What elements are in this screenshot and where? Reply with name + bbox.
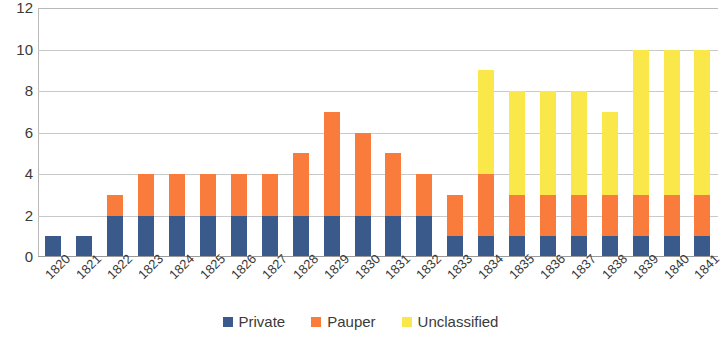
y-axis-tick-label: 10 bbox=[3, 42, 33, 57]
legend-item[interactable]: Unclassified bbox=[402, 314, 499, 329]
legend-item[interactable]: Pauper bbox=[311, 314, 375, 329]
bar-slot[interactable] bbox=[687, 8, 718, 257]
bar-stack[interactable] bbox=[633, 50, 649, 258]
bar-segment-pauper[interactable] bbox=[694, 195, 710, 237]
x-axis-tick-slot: 1820 bbox=[38, 258, 69, 306]
y-axis-tick-label: 8 bbox=[3, 83, 33, 98]
bar-segment-pauper[interactable] bbox=[293, 153, 309, 215]
bar-segment-pauper[interactable] bbox=[571, 195, 587, 237]
bar-slot[interactable] bbox=[285, 8, 316, 257]
bar-stack[interactable] bbox=[262, 174, 278, 257]
bar-segment-unclassified[interactable] bbox=[509, 91, 525, 195]
bar-segment-unclassified[interactable] bbox=[571, 91, 587, 195]
bar-segment-pauper[interactable] bbox=[633, 195, 649, 237]
bar-slot[interactable] bbox=[69, 8, 100, 257]
bar-slot[interactable] bbox=[38, 8, 69, 257]
bar-segment-private[interactable] bbox=[262, 216, 278, 258]
bar-slot[interactable] bbox=[502, 8, 533, 257]
bar-segment-pauper[interactable] bbox=[447, 195, 463, 237]
bar-slot[interactable] bbox=[625, 8, 656, 257]
bar-segment-private[interactable] bbox=[385, 216, 401, 258]
bar-segment-unclassified[interactable] bbox=[540, 91, 556, 195]
bar-slot[interactable] bbox=[563, 8, 594, 257]
bar-slot[interactable] bbox=[656, 8, 687, 257]
bar-segment-pauper[interactable] bbox=[355, 133, 371, 216]
bar-stack[interactable] bbox=[447, 195, 463, 257]
bar-segment-pauper[interactable] bbox=[107, 195, 123, 216]
bar-slot[interactable] bbox=[471, 8, 502, 257]
y-axis-tick-label: 2 bbox=[3, 208, 33, 223]
y-axis-tick-label: 4 bbox=[3, 166, 33, 181]
legend-label: Private bbox=[239, 314, 286, 329]
bar-segment-unclassified[interactable] bbox=[664, 50, 680, 195]
bar-segment-private[interactable] bbox=[324, 216, 340, 258]
bar-segment-pauper[interactable] bbox=[169, 174, 185, 216]
legend-swatch-icon bbox=[311, 317, 321, 327]
x-axis-tick-slot: 1831 bbox=[378, 258, 409, 306]
x-axis-tick-slot: 1822 bbox=[100, 258, 131, 306]
bar-slot[interactable] bbox=[594, 8, 625, 257]
legend-label: Unclassified bbox=[418, 314, 499, 329]
bar-segment-private[interactable] bbox=[107, 216, 123, 258]
bar-segment-private[interactable] bbox=[138, 216, 154, 258]
bar-slot[interactable] bbox=[193, 8, 224, 257]
bar-segment-pauper[interactable] bbox=[324, 112, 340, 216]
x-axis-tick-slot: 1832 bbox=[409, 258, 440, 306]
bar-segment-unclassified[interactable] bbox=[602, 112, 618, 195]
bar-slot[interactable] bbox=[131, 8, 162, 257]
bar-stack[interactable] bbox=[602, 112, 618, 257]
bar-segment-pauper[interactable] bbox=[540, 195, 556, 237]
bar-segment-unclassified[interactable] bbox=[694, 50, 710, 195]
bar-slot[interactable] bbox=[347, 8, 378, 257]
bar-segment-private[interactable] bbox=[416, 216, 432, 258]
bar-slot[interactable] bbox=[316, 8, 347, 257]
legend-swatch-icon bbox=[402, 317, 412, 327]
bar-stack[interactable] bbox=[664, 50, 680, 258]
x-axis-tick-slot: 1839 bbox=[625, 258, 656, 306]
bar-stack[interactable] bbox=[509, 91, 525, 257]
bar-stack[interactable] bbox=[231, 174, 247, 257]
x-axis-tick-slot: 1833 bbox=[440, 258, 471, 306]
bar-slot[interactable] bbox=[533, 8, 564, 257]
bar-slot[interactable] bbox=[378, 8, 409, 257]
bar-stack[interactable] bbox=[200, 174, 216, 257]
bar-stack[interactable] bbox=[169, 174, 185, 257]
bar-segment-pauper[interactable] bbox=[416, 174, 432, 216]
bar-stack[interactable] bbox=[107, 195, 123, 257]
bar-segment-private[interactable] bbox=[200, 216, 216, 258]
bar-stack[interactable] bbox=[293, 153, 309, 257]
bar-stack[interactable] bbox=[324, 112, 340, 257]
bar-segment-pauper[interactable] bbox=[231, 174, 247, 216]
bar-stack[interactable] bbox=[385, 153, 401, 257]
bar-stack[interactable] bbox=[138, 174, 154, 257]
bar-segment-private[interactable] bbox=[293, 216, 309, 258]
bar-segment-pauper[interactable] bbox=[602, 195, 618, 237]
bar-stack[interactable] bbox=[571, 91, 587, 257]
bar-segment-pauper[interactable] bbox=[262, 174, 278, 216]
legend-item[interactable]: Private bbox=[223, 314, 286, 329]
bar-stack[interactable] bbox=[540, 91, 556, 257]
bar-slot[interactable] bbox=[440, 8, 471, 257]
x-axis-tick-slot: 1829 bbox=[316, 258, 347, 306]
bar-slot[interactable] bbox=[100, 8, 131, 257]
bar-slot[interactable] bbox=[254, 8, 285, 257]
bar-stack[interactable] bbox=[478, 70, 494, 257]
bar-segment-private[interactable] bbox=[355, 216, 371, 258]
bar-slot[interactable] bbox=[162, 8, 193, 257]
bar-segment-unclassified[interactable] bbox=[478, 70, 494, 174]
bar-segment-unclassified[interactable] bbox=[633, 50, 649, 195]
bar-segment-pauper[interactable] bbox=[138, 174, 154, 216]
bar-slot[interactable] bbox=[223, 8, 254, 257]
bar-segment-pauper[interactable] bbox=[385, 153, 401, 215]
bar-segment-private[interactable] bbox=[231, 216, 247, 258]
bar-segment-private[interactable] bbox=[169, 216, 185, 258]
bar-segment-pauper[interactable] bbox=[478, 174, 494, 236]
bar-segment-pauper[interactable] bbox=[200, 174, 216, 216]
bar-slot[interactable] bbox=[409, 8, 440, 257]
bar-stack[interactable] bbox=[355, 133, 371, 258]
x-axis-tick-slot: 1828 bbox=[285, 258, 316, 306]
bar-segment-pauper[interactable] bbox=[664, 195, 680, 237]
bar-segment-pauper[interactable] bbox=[509, 195, 525, 237]
bar-stack[interactable] bbox=[416, 174, 432, 257]
bar-stack[interactable] bbox=[694, 50, 710, 258]
